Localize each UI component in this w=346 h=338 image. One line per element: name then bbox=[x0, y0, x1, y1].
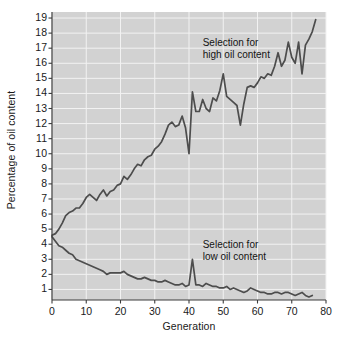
y-tick-label: 9 bbox=[27, 162, 47, 174]
x-tick-label: 70 bbox=[280, 305, 304, 317]
y-tick-label: 6 bbox=[27, 207, 47, 219]
y-tick-label: 10 bbox=[27, 147, 47, 159]
y-tick-label: 14 bbox=[27, 86, 47, 98]
annotation-low-oil: Selection for low oil content bbox=[203, 239, 266, 264]
x-tick-label: 50 bbox=[211, 305, 235, 317]
x-axis-title-container: Generation bbox=[52, 316, 326, 334]
x-tick-label: 30 bbox=[143, 305, 167, 317]
x-tick-label: 20 bbox=[109, 305, 133, 317]
y-tick-label: 4 bbox=[27, 237, 47, 249]
y-tick-label: 16 bbox=[27, 56, 47, 68]
y-tick-label: 8 bbox=[27, 177, 47, 189]
x-tick-label: 80 bbox=[314, 305, 338, 317]
x-tick-label: 40 bbox=[177, 305, 201, 317]
y-tick-label: 2 bbox=[27, 267, 47, 279]
plot-canvas bbox=[0, 0, 346, 338]
y-tick-label: 5 bbox=[27, 222, 47, 234]
y-tick-label: 1 bbox=[27, 282, 47, 294]
x-axis-title: Generation bbox=[163, 320, 216, 332]
y-tick-label: 3 bbox=[27, 252, 47, 264]
y-tick-label: 7 bbox=[27, 192, 47, 204]
y-tick-label: 11 bbox=[27, 132, 47, 144]
x-tick-label: 0 bbox=[40, 305, 64, 317]
y-tick-label: 18 bbox=[27, 26, 47, 38]
oil-content-chart: Percentage of oil content Generation 123… bbox=[0, 0, 346, 338]
x-tick-label: 60 bbox=[246, 305, 270, 317]
x-tick-label: 10 bbox=[74, 305, 98, 317]
y-tick-label: 13 bbox=[27, 102, 47, 114]
y-tick-label: 15 bbox=[27, 71, 47, 83]
y-tick-label: 19 bbox=[27, 11, 47, 23]
y-tick-label: 17 bbox=[27, 41, 47, 53]
y-tick-label: 12 bbox=[27, 117, 47, 129]
annotation-high-oil: Selection for high oil content bbox=[203, 37, 270, 62]
